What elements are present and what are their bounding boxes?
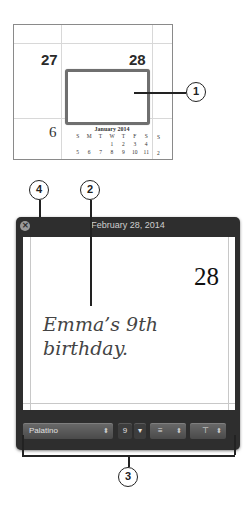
font-size-dropdown[interactable]: ▾	[134, 423, 146, 439]
alignment-select[interactable]: ≡ ⬍	[150, 423, 186, 439]
event-text[interactable]: Emma’s 9th birthday.	[43, 312, 213, 360]
weekday: S	[141, 132, 152, 140]
weekday: W	[106, 132, 117, 140]
title-bar[interactable]: ✕ February 28, 2014	[16, 217, 240, 236]
callout-2: 2	[80, 180, 100, 200]
callout-4: 4	[29, 180, 49, 200]
mini-day[interactable]: 5	[72, 148, 83, 156]
weekday: F	[129, 132, 140, 140]
mini-day[interactable]: 6	[83, 148, 94, 156]
mini-day[interactable]: 3	[129, 140, 140, 148]
mini-week-row: 1 2 3 4	[72, 140, 152, 148]
mini-day[interactable]	[72, 140, 83, 148]
weekday: T	[95, 132, 106, 140]
mini-weekday-row: S M T W T F S	[72, 132, 152, 140]
next-month-day: 2	[157, 150, 160, 156]
font-size-field[interactable]: 9	[118, 423, 132, 439]
mini-day[interactable]: 8	[106, 148, 117, 156]
format-toolbar: Palatino ⬍ 9 ▾ ≡ ⬍ ⊤ ⬍	[23, 423, 235, 439]
vertical-alignment-select[interactable]: ⊤ ⬍	[190, 423, 226, 439]
mini-day[interactable]	[95, 140, 106, 148]
updown-arrows-icon: ⬍	[176, 423, 182, 439]
valign-top-icon: ⊤	[190, 426, 209, 435]
mini-day[interactable]: 2	[118, 140, 129, 148]
align-left-icon: ≡	[150, 426, 163, 435]
grid-line	[14, 43, 172, 44]
font-select[interactable]: Palatino ⬍	[23, 423, 113, 439]
callout-1: 1	[186, 82, 206, 102]
callout-3: 3	[118, 467, 138, 487]
day-number-27: 27	[41, 51, 58, 68]
callout-bracket-3	[234, 435, 236, 455]
callout-bracket-3	[22, 435, 24, 455]
font-name: Palatino	[29, 426, 58, 435]
mini-day[interactable]	[83, 140, 94, 148]
event-popover-window: ✕ February 28, 2014 28 Emma’s 9th birthd…	[16, 217, 240, 450]
next-month-header: S	[157, 134, 160, 140]
day-number-28: 28	[129, 51, 146, 68]
mini-day[interactable]: 1	[106, 140, 117, 148]
mini-day[interactable]: 10	[129, 148, 140, 156]
weekday: T	[118, 132, 129, 140]
margin-guide	[23, 403, 235, 404]
callout-leader-1	[134, 92, 186, 94]
day-number: 28	[194, 263, 219, 291]
grid-line	[61, 25, 62, 159]
new-event-box[interactable]	[65, 69, 150, 125]
mini-day[interactable]: 4	[141, 140, 152, 148]
day-page: 28 Emma’s 9th birthday.	[23, 237, 235, 410]
mini-day[interactable]: 9	[118, 148, 129, 156]
mini-day[interactable]: 11	[141, 148, 152, 156]
mini-week-row: 5 6 7 8 9 10 11	[72, 148, 152, 156]
window-title: February 28, 2014	[16, 220, 240, 230]
day-number-6: 6	[49, 124, 57, 141]
callout-leader-2	[90, 200, 92, 306]
weekday: M	[83, 132, 94, 140]
margin-guide	[228, 237, 229, 410]
updown-arrows-icon: ⬍	[103, 423, 109, 439]
mini-day[interactable]: 7	[95, 148, 106, 156]
margin-guide	[30, 237, 31, 410]
weekday: S	[72, 132, 83, 140]
updown-arrows-icon: ⬍	[216, 423, 222, 439]
callout-leader-3	[128, 455, 130, 467]
